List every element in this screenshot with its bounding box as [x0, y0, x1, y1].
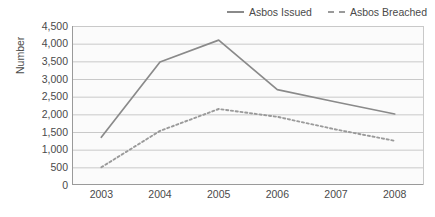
plot-svg	[72, 26, 424, 185]
y-tick-label: 4,500	[28, 21, 68, 32]
plot-area	[72, 26, 424, 185]
x-tick-label: 2006	[247, 188, 307, 200]
y-tick-label: 4,000	[28, 38, 68, 49]
y-tick-label: 2,000	[28, 109, 68, 120]
series-line-asbos-issued	[101, 40, 394, 137]
x-axis-tick-labels: 200320042005200620072008	[0, 188, 435, 204]
x-tick-label: 2004	[130, 188, 190, 200]
y-tick-label: 3,000	[28, 74, 68, 85]
legend-label-asbos-issued: Asbos Issued	[249, 6, 312, 18]
y-tick-label: 2,500	[28, 91, 68, 102]
chart-legend: Asbos Issued Asbos Breached	[0, 3, 435, 21]
y-tick-label: 1,000	[28, 144, 68, 155]
x-tick-label: 2003	[71, 188, 131, 200]
y-tick-label: 1,500	[28, 127, 68, 138]
series-line-asbos-breached	[101, 109, 394, 167]
x-tick-label: 2007	[306, 188, 366, 200]
y-tick-label: 3,500	[28, 56, 68, 67]
line-chart: Asbos Issued Asbos Breached Number 05001…	[0, 0, 435, 217]
x-tick-label: 2005	[189, 188, 249, 200]
y-tick-label: 500	[28, 162, 68, 173]
legend-line-solid-icon	[227, 11, 244, 13]
legend-label-asbos-breached: Asbos Breached	[350, 6, 427, 18]
y-axis-tick-labels: 05001,0001,5002,0002,5003,0003,5004,0004…	[28, 20, 68, 192]
legend-item-asbos-breached: Asbos Breached	[328, 6, 427, 18]
legend-item-asbos-issued: Asbos Issued	[227, 6, 312, 18]
legend-line-dashed-icon	[328, 11, 345, 13]
x-tick-label: 2008	[365, 188, 425, 200]
y-axis-title: Number	[14, 37, 26, 74]
